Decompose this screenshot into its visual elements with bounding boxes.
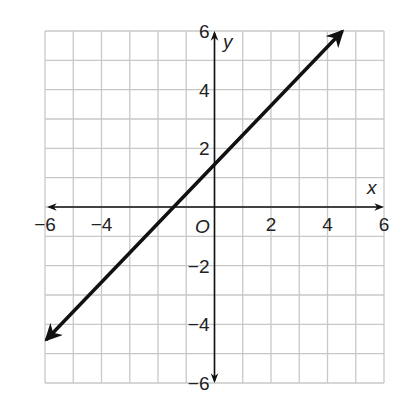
- x-tick-label: 6: [379, 214, 390, 235]
- y-tick-label: 6: [199, 21, 210, 42]
- x-tick-label: 4: [322, 214, 333, 235]
- y-axis-label: y: [221, 31, 234, 52]
- y-tick-label: 2: [199, 138, 210, 159]
- x-tick-label: −6: [34, 214, 56, 235]
- y-tick-label: −2: [188, 256, 210, 277]
- x-tick-label: −4: [91, 214, 113, 235]
- x-axis-label: x: [366, 177, 378, 198]
- origin-label: O: [195, 216, 210, 237]
- axes: [49, 33, 382, 381]
- y-tick-label: −4: [188, 314, 210, 335]
- series-line: [47, 32, 342, 339]
- y-tick-label: 4: [199, 80, 210, 101]
- plotted-line: [47, 32, 342, 339]
- y-tick-label: −6: [188, 373, 210, 394]
- coordinate-plane: −6−4246642−2−4−6 x y O: [0, 0, 406, 403]
- x-tick-label: 2: [266, 214, 277, 235]
